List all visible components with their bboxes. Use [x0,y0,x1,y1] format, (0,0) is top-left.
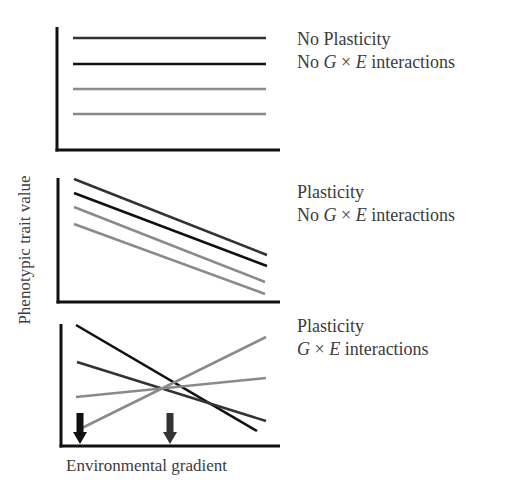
subtitle-suffix: interactions [340,339,428,359]
down-arrow-icon [73,432,87,444]
arrow-shaft [77,413,84,433]
environment-symbol: E [356,205,367,225]
times-symbol: × [310,339,329,359]
panel-subtitle: No G × E interactions [297,204,455,227]
genotype-symbol: G [297,339,310,359]
y-axis-label: Phenotypic trait value [15,175,35,324]
times-symbol: × [337,52,356,72]
panel-label-plasticity-no-gxe: Plasticity No G × E interactions [297,181,455,227]
panel-plasticity-no-gxe [57,178,281,304]
panel-title: Plasticity [297,315,429,338]
reaction-norm-line [74,224,265,294]
panel-title: No Plasticity [297,28,455,51]
reaction-norm-line [74,193,267,266]
reaction-norm-line [82,337,266,428]
environment-symbol: E [329,339,340,359]
times-symbol: × [337,205,356,225]
panel-label-no-plasticity: No Plasticity No G × E interactions [297,28,455,74]
panel-subtitle: No G × E interactions [297,51,455,74]
reaction-norm-line [74,207,265,282]
x-axis-label: Environmental gradient [66,456,227,476]
reaction-norm-line [77,362,266,421]
subtitle-prefix: No [297,52,324,72]
genotype-symbol: G [324,205,337,225]
panel-plasticity-gxe [60,324,281,448]
genotype-symbol: G [324,52,337,72]
panel-no-plasticity [56,27,281,152]
panel-subtitle: G × E interactions [297,338,429,361]
subtitle-prefix: No [297,205,324,225]
panel-title: Plasticity [297,181,455,204]
down-arrow-icon [163,432,177,444]
subtitle-suffix: interactions [367,205,455,225]
panel-label-plasticity-gxe: Plasticity G × E interactions [297,315,429,361]
arrow-shaft [167,413,174,433]
environment-symbol: E [356,52,367,72]
reaction-norm-figure [0,0,529,501]
subtitle-suffix: interactions [367,52,455,72]
